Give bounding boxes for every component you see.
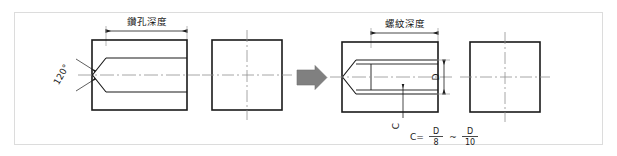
formula-numerator-2: D bbox=[467, 127, 473, 136]
formula-denominator-1: 8 bbox=[433, 138, 438, 147]
chamfer-label: C bbox=[391, 123, 401, 129]
formula-range-tilde: ~ bbox=[449, 132, 457, 142]
technical-drawing-figure: 鑽孔深度 120° bbox=[0, 0, 617, 156]
formula-denominator-2: 10 bbox=[465, 138, 475, 147]
formula-numerator-1: D bbox=[433, 127, 439, 136]
diameter-label: D bbox=[431, 73, 441, 80]
drill-depth-label: 鑽孔深度 bbox=[127, 16, 167, 27]
formula-lead: C= bbox=[410, 132, 424, 142]
thread-depth-label: 螺紋深度 bbox=[385, 18, 425, 29]
